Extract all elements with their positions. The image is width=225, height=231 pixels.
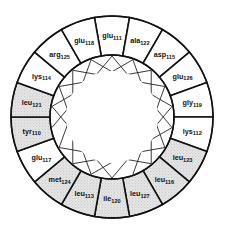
residue-number: 124 <box>61 179 71 185</box>
residue-name: leu <box>173 153 183 162</box>
residue-number: 120 <box>111 198 120 204</box>
residue-number: 125 <box>61 54 70 60</box>
residue-name: glu <box>74 36 85 45</box>
residue-number: 111 <box>113 35 122 41</box>
helical-wheel-diagram: glu111ala122asp115glu126gly119lys112leu1… <box>0 0 225 231</box>
residue-number: 112 <box>193 130 202 136</box>
wheel-core <box>66 71 158 163</box>
residue-name: ile <box>103 194 111 203</box>
residue-number: 118 <box>85 40 94 46</box>
residue-number: 116 <box>165 179 174 185</box>
residue-name: met <box>49 175 62 184</box>
residue-number: 110 <box>32 130 41 136</box>
residue-name: glu <box>102 31 113 40</box>
residue-name: glu <box>32 153 43 162</box>
residue-number: 123 <box>183 157 192 163</box>
residue-name: leu <box>74 189 84 198</box>
residue-number: 127 <box>140 193 149 199</box>
residue-name: tyr <box>23 127 32 136</box>
residue-name: lys <box>32 72 42 81</box>
residue-name: leu <box>130 189 140 198</box>
residue-name: leu <box>22 98 32 107</box>
residue-number: 119 <box>193 102 202 108</box>
residue-number: 117 <box>42 157 51 163</box>
residue-name: leu <box>155 175 165 184</box>
residue-name: glu <box>173 72 184 81</box>
residue-name: lys <box>183 127 193 136</box>
residue-number: 113 <box>85 193 94 199</box>
residue-number: 115 <box>166 54 175 60</box>
residue-number: 122 <box>140 40 149 46</box>
residue-name: arg <box>49 50 60 59</box>
residue-number: 126 <box>183 75 192 81</box>
residue-number: 121 <box>32 102 41 108</box>
residue-name: asp <box>154 50 167 59</box>
residue-number: 114 <box>42 75 52 81</box>
residue-name: gly <box>183 98 193 107</box>
